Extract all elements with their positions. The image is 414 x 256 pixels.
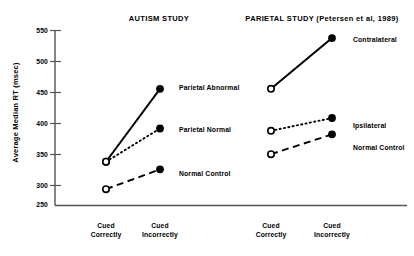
data-point-filled-circle — [328, 34, 336, 42]
series-line — [106, 169, 160, 189]
data-point-open-circle — [268, 128, 274, 134]
x-tick-line2: Incorrectly — [125, 231, 195, 240]
series-label-parietal-normal-control: Normal Control — [353, 144, 405, 151]
data-point-filled-circle — [156, 85, 164, 93]
data-point-filled-circle — [328, 114, 336, 122]
x-tick-parietal-cued-correctly: Cued Correctly — [236, 222, 306, 239]
series-label-parietal-normal: Parietal Normal — [179, 126, 231, 133]
x-tick-parietal-cued-incorrectly: Cued Incorrectly — [297, 222, 367, 239]
x-tick-line1: Cued — [125, 222, 195, 231]
data-point-filled-circle — [156, 125, 164, 133]
x-tick-line2: Incorrectly — [297, 231, 367, 240]
series-line — [271, 38, 332, 89]
series-label-ipsilateral: Ipsilateral — [353, 122, 386, 129]
series-line — [106, 89, 160, 162]
series-line — [271, 134, 332, 154]
series-label-autism-normal-control: Normal Control — [179, 170, 231, 177]
data-point-filled-circle — [328, 130, 336, 138]
x-tick-line1: Cued — [297, 222, 367, 231]
data-point-open-circle — [268, 151, 274, 157]
data-point-open-circle — [268, 86, 274, 92]
series-label-parietal-abnormal: Parietal Abnormal — [179, 84, 239, 91]
data-point-open-circle — [103, 159, 109, 165]
series-line — [106, 129, 160, 162]
data-point-open-circle — [103, 186, 109, 192]
series-label-contralateral: Contralateral — [353, 36, 397, 43]
data-point-filled-circle — [156, 165, 164, 173]
x-tick-line1: Cued — [236, 222, 306, 231]
x-tick-autism-cued-incorrectly: Cued Incorrectly — [125, 222, 195, 239]
data-series-layer — [103, 34, 336, 192]
x-tick-line2: Correctly — [236, 231, 306, 240]
series-line — [271, 118, 332, 131]
chart-figure: Average Median RT (msec) 550 500 450 400… — [0, 0, 414, 256]
